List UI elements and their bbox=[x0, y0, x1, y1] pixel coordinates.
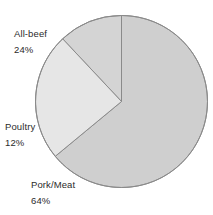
pie-label-pork-meat: Pork/Meat 64% bbox=[31, 178, 75, 207]
pie-label-pork-meat-percent: 64% bbox=[31, 194, 75, 207]
pie-label-all-beef-percent: 24% bbox=[14, 43, 47, 56]
pie-chart: All-beef 24% Poultry 12% Pork/Meat 64% bbox=[0, 0, 213, 215]
pie-label-poultry-percent: 12% bbox=[5, 136, 35, 149]
pie-label-pork-meat-name: Pork/Meat bbox=[31, 178, 75, 191]
pie-label-all-beef: All-beef 24% bbox=[14, 27, 47, 56]
pie-slices bbox=[36, 16, 208, 188]
pie-label-all-beef-name: All-beef bbox=[14, 27, 47, 40]
pie-label-poultry: Poultry 12% bbox=[5, 120, 35, 149]
pie-label-poultry-name: Poultry bbox=[5, 120, 35, 133]
